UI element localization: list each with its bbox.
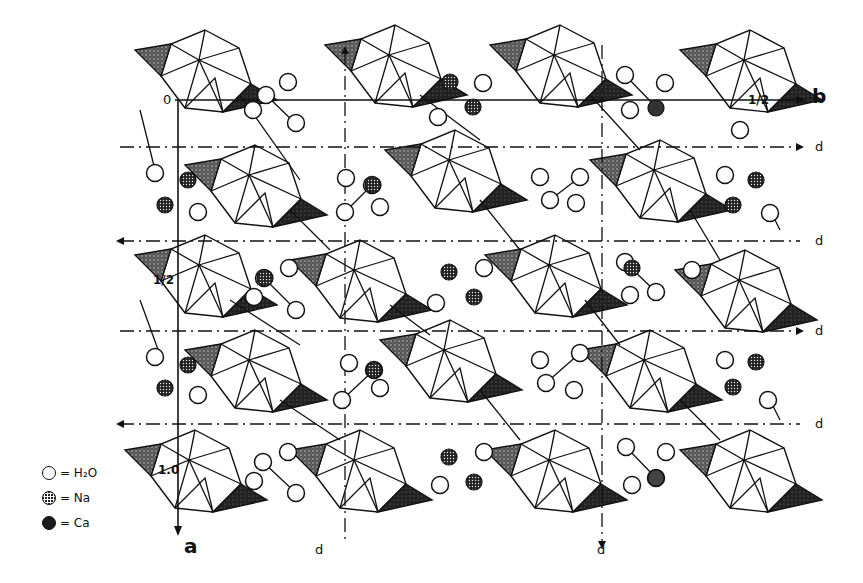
- legend-item-h2o: = H₂O: [42, 460, 97, 485]
- calcium-filled-circle-icon: [42, 516, 56, 530]
- legend-label-na: = Na: [60, 491, 90, 505]
- framework-cages: [125, 25, 822, 512]
- glide-label-v1: d: [315, 543, 323, 556]
- legend-item-ca: = Ca: [42, 510, 97, 535]
- glide-label-h3: d: [815, 324, 823, 337]
- water-open-circle-icon: [42, 466, 56, 480]
- structure-drawing: [0, 0, 863, 583]
- glide-label-h1: d: [815, 140, 823, 153]
- unit-a-label: 1.0: [158, 464, 179, 476]
- glide-label-h2: d: [815, 234, 823, 247]
- axis-arrowheads: [174, 96, 806, 536]
- legend-label-ca: = Ca: [60, 516, 90, 530]
- origin-label: 0: [163, 93, 171, 106]
- sodium-dotted-circle-icon: [42, 491, 56, 505]
- legend: = H₂O = Na = Ca: [42, 460, 97, 535]
- legend-label-h2o: = H₂O: [60, 466, 97, 480]
- glide-label-h4: d: [815, 417, 823, 430]
- a-axis-label: a: [184, 536, 198, 556]
- legend-item-na: = Na: [42, 485, 97, 510]
- crystal-structure-diagram: 0 b a 1/2 1/2 1.0 d d d d d d = H₂O = Na…: [0, 0, 863, 583]
- half-a-label: 1/2: [153, 274, 174, 286]
- half-b-label: 1/2: [748, 94, 769, 106]
- b-axis-label: b: [812, 86, 826, 106]
- glide-label-v2: d: [597, 543, 605, 556]
